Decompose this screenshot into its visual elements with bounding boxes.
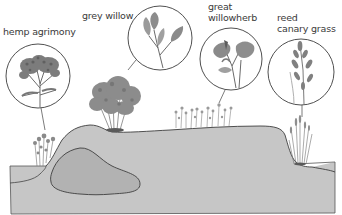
- label-line: grey willow: [82, 10, 133, 21]
- callout-leader-lines: [41, 60, 302, 130]
- label-line: willowherb: [208, 12, 257, 23]
- reed-canary-grass-plants: [289, 115, 312, 166]
- callout-grey-willow: [128, 6, 192, 70]
- label-hemp-agrimony: hemp agrimony: [3, 26, 76, 37]
- label-line: hemp agrimony: [3, 26, 76, 37]
- grey-willow-shrub: [89, 76, 141, 132]
- label-great-willowherb: great willowherb: [208, 1, 257, 23]
- callout-great-willowherb: [200, 28, 262, 90]
- ground-section: [10, 125, 335, 214]
- label-reed-canary-grass: reed canary grass: [277, 12, 336, 34]
- label-line: canary grass: [277, 23, 336, 34]
- label-grey-willow: grey willow: [82, 10, 133, 21]
- callout-reed-canary-grass: [268, 39, 334, 105]
- label-line: reed: [277, 12, 336, 23]
- willowherb-plants: [175, 103, 233, 128]
- callout-hemp-agrimony: [6, 44, 70, 108]
- label-line: great: [208, 1, 257, 12]
